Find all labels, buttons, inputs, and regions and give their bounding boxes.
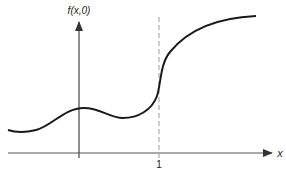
function-curve [8,16,256,132]
diagram: f(x,0) x 1 [0,0,286,173]
x-axis-label: x [276,147,283,159]
x-tick-label-1: 1 [156,159,162,170]
y-axis-label: f(x,0) [68,5,91,16]
